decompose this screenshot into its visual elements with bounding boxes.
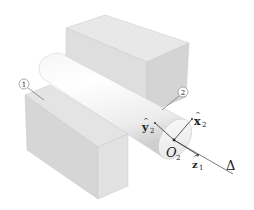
body2-label: 2	[178, 87, 188, 97]
z1-subscript: 1	[199, 164, 203, 172]
y2-hat: ^	[143, 117, 149, 125]
diagram-canvas: 1 2 x ^ 2 y ^ 2 O 2 z ^ 1 Δ	[0, 0, 254, 210]
axis-delta-label: Δ	[226, 158, 235, 173]
x2-label: x ^ 2	[194, 111, 206, 129]
body1-label: 1	[19, 79, 29, 89]
z1-label: z ^ 1	[192, 154, 203, 172]
y2-subscript: 2	[150, 127, 154, 135]
x2-hat: ^	[195, 111, 201, 119]
origin-point	[173, 139, 176, 142]
origin-subscript: 2	[176, 154, 180, 162]
z1-hat: ^	[193, 154, 199, 162]
body1-label-text: 1	[22, 81, 26, 89]
x2-subscript: 2	[202, 121, 206, 129]
body2-label-text: 2	[181, 89, 185, 97]
